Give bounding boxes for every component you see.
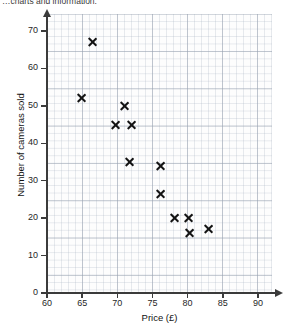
y-axis-tick xyxy=(41,255,47,257)
data-point-marker xyxy=(77,93,88,104)
y-axis-title: Number of cameras sold xyxy=(16,70,26,220)
x-axis-tick xyxy=(117,292,119,298)
data-point-marker xyxy=(184,228,195,239)
y-axis-arrow-icon xyxy=(43,9,51,17)
x-axis-tick-label: 65 xyxy=(70,299,94,308)
data-point-marker xyxy=(155,188,166,199)
x-axis-tick xyxy=(187,292,189,298)
y-axis-tick xyxy=(41,105,47,107)
x-axis-tick xyxy=(222,292,224,298)
scatter-chart: 010203040506070 60657075808590 Number of… xyxy=(0,0,289,333)
y-axis-tick-label: 70 xyxy=(18,26,38,35)
x-axis-tick xyxy=(257,292,259,298)
x-axis-arrow-icon xyxy=(275,289,283,297)
y-axis-line xyxy=(46,16,48,294)
y-axis-tick-label: 0 xyxy=(18,288,38,297)
data-point-marker xyxy=(119,100,130,111)
data-point-marker xyxy=(169,213,180,224)
x-axis-tick xyxy=(81,292,83,298)
x-axis-tick xyxy=(46,292,48,298)
plot-area xyxy=(47,14,272,293)
data-point-marker xyxy=(124,156,135,167)
data-point-marker xyxy=(203,224,214,235)
x-axis-tick-label: 90 xyxy=(246,299,270,308)
x-axis-tick-label: 80 xyxy=(176,299,200,308)
x-axis-tick xyxy=(152,292,154,298)
data-point-marker xyxy=(183,213,194,224)
data-point-marker xyxy=(110,119,121,130)
y-axis-tick xyxy=(41,217,47,219)
x-axis-title: Price (£) xyxy=(47,313,272,323)
data-point-marker xyxy=(155,160,166,171)
y-axis-tick xyxy=(41,68,47,70)
data-point-marker xyxy=(126,119,137,130)
x-axis-tick-label: 85 xyxy=(211,299,235,308)
y-axis-tick-label: 10 xyxy=(18,251,38,260)
y-axis-tick xyxy=(41,143,47,145)
y-axis-tick xyxy=(41,180,47,182)
data-point-marker xyxy=(87,37,98,48)
y-axis-tick xyxy=(41,30,47,32)
x-axis-tick-label: 70 xyxy=(105,299,129,308)
x-axis-tick-label: 75 xyxy=(140,299,164,308)
x-axis-tick-label: 60 xyxy=(35,299,59,308)
